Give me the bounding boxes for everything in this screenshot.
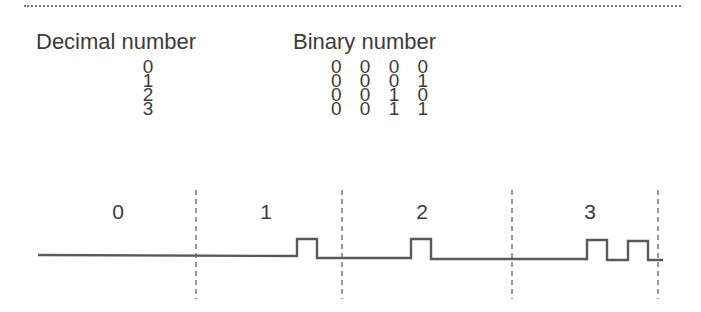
pulse-waveform [38,239,663,260]
timing-diagram [0,0,701,312]
slot-dividers [196,190,658,299]
